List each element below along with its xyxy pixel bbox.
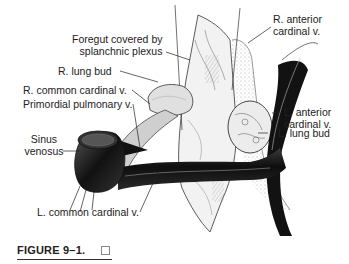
label-l-anterior-cardinal-line-1: L. anterior bbox=[284, 106, 331, 118]
label-l-common-cardinal: L. common cardinal v. bbox=[37, 206, 139, 218]
label-r-lung-bud: R. lung bud bbox=[58, 65, 112, 77]
label-l-lung-bud: L. lung bud bbox=[278, 127, 330, 139]
checkbox-icon[interactable] bbox=[101, 246, 110, 255]
label-r-lung-bud-line-1: R. lung bud bbox=[58, 65, 112, 77]
label-primordial-pulmonary-line-1: Primordial pulmonary v. bbox=[23, 98, 133, 110]
label-r-anterior-cardinal-line-1: R. anterior bbox=[273, 13, 322, 25]
label-r-anterior-cardinal-line-2: cardinal v. bbox=[273, 25, 322, 37]
l-anterior-cardinal-vessel bbox=[267, 43, 319, 236]
label-primordial-pulmonary: Primordial pulmonary v. bbox=[23, 98, 133, 110]
label-l-lung-bud-line-1: L. lung bud bbox=[278, 127, 330, 139]
label-sinus-venosus: Sinus venosus bbox=[22, 133, 66, 157]
figure-caption: FIGURE 9–1. bbox=[17, 244, 85, 256]
label-sinus-venosus-line-2: venosus bbox=[22, 145, 66, 157]
label-r-common-cardinal-line-1: R. common cardinal v. bbox=[23, 84, 127, 96]
label-r-anterior-cardinal: R. anterior cardinal v. bbox=[273, 13, 322, 37]
figure-9-1: Foregut covered by splanchnic plexus R. … bbox=[0, 0, 349, 264]
label-l-common-cardinal-line-1: L. common cardinal v. bbox=[37, 206, 139, 218]
l-lung-bud-shape bbox=[228, 101, 272, 153]
sinus-venosus-shape bbox=[70, 131, 125, 212]
label-sinus-venosus-line-1: Sinus bbox=[22, 133, 66, 145]
caption-underline bbox=[17, 259, 112, 260]
label-foregut-line-1: Foregut covered by bbox=[72, 33, 162, 45]
label-foregut: Foregut covered by splanchnic plexus bbox=[72, 33, 162, 57]
label-foregut-line-2: splanchnic plexus bbox=[72, 45, 162, 57]
label-r-common-cardinal: R. common cardinal v. bbox=[23, 84, 127, 96]
r-lung-bud-shape bbox=[148, 85, 193, 116]
